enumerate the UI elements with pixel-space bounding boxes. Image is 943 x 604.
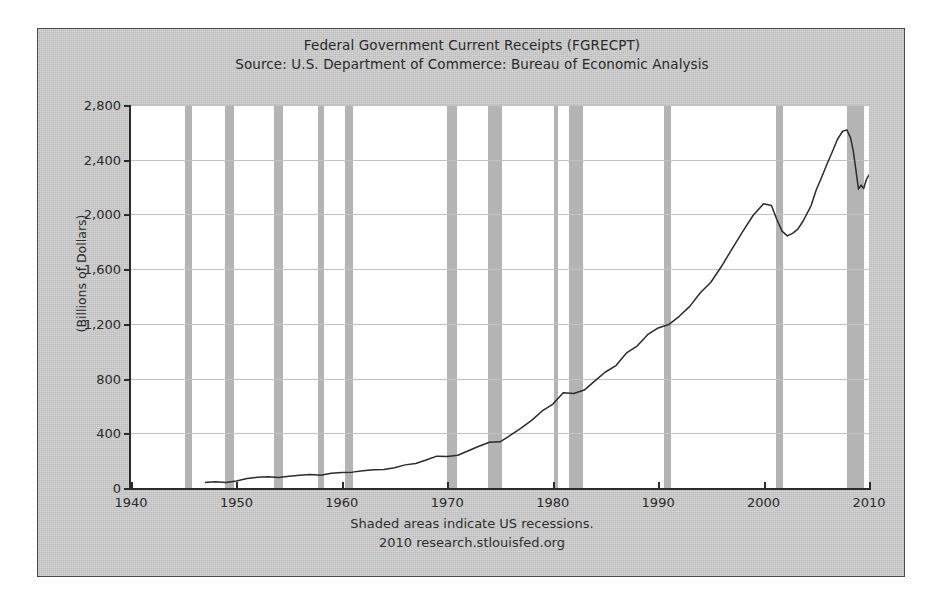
y-tick-label: 400 (96, 426, 121, 441)
y-tick-label: 800 (96, 371, 121, 386)
data-series-fgrecpt (131, 105, 869, 488)
y-tick-label: 1,200 (84, 316, 121, 331)
x-tick-label: 1980 (536, 495, 569, 510)
source-credit: 2010 research.stlouisfed.org (38, 535, 906, 550)
x-tick (869, 482, 871, 490)
x-tick-label: 2000 (747, 495, 780, 510)
plot-area: 04008001,2001,6002,0002,4002,800 1940195… (129, 105, 869, 490)
y-tick (124, 379, 131, 381)
x-tick (658, 482, 660, 490)
y-tick-label: 1,600 (84, 262, 121, 277)
y-tick-label: 2,800 (84, 98, 121, 113)
x-tick-label: 1940 (114, 495, 147, 510)
x-tick (447, 482, 449, 490)
figure-root: Federal Government Current Receipts (FGR… (0, 0, 943, 604)
x-tick-label: 2010 (852, 495, 885, 510)
chart-subtitle: Source: U.S. Department of Commerce: Bur… (38, 56, 906, 72)
plot-clip (131, 105, 869, 488)
y-tick-label: 0 (113, 481, 121, 496)
y-tick-label: 2,000 (84, 207, 121, 222)
x-tick (131, 482, 133, 490)
x-tick (342, 482, 344, 490)
x-tick-label: 1970 (431, 495, 464, 510)
recession-note: Shaded areas indicate US recessions. (38, 516, 906, 531)
y-tick (124, 433, 131, 435)
chart-title: Federal Government Current Receipts (FGR… (38, 37, 906, 53)
y-tick (124, 214, 131, 216)
y-tick (124, 488, 131, 490)
x-tick-label: 1990 (642, 495, 675, 510)
chart-panel: Federal Government Current Receipts (FGR… (37, 28, 905, 577)
y-tick (124, 105, 131, 107)
series-line (205, 130, 869, 483)
y-tick (124, 269, 131, 271)
x-tick (764, 482, 766, 490)
y-tick (124, 324, 131, 326)
x-tick-label: 1950 (220, 495, 253, 510)
x-tick-label: 1960 (325, 495, 358, 510)
y-tick-label: 2,400 (84, 152, 121, 167)
y-tick (124, 160, 131, 162)
x-tick (236, 482, 238, 490)
x-tick (553, 482, 555, 490)
